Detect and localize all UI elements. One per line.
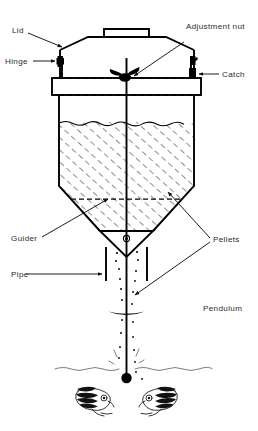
hinge-fitting [57,56,65,67]
water-surface-line [55,367,212,370]
leader-lid [28,33,62,47]
label-adjustment-nut: Adjustment nut [186,22,245,31]
demand-feeder-diagram: Lid Hinge Adjustment nut Catch Guider Pi… [0,0,258,431]
label-hinge: Hinge [5,57,28,66]
label-lid: Lid [12,26,24,35]
fish-left [76,387,114,416]
pellet-fill-hatching [55,118,200,238]
fish-right [139,387,177,416]
label-pellets: Pellets [213,235,240,244]
pendulum-ball [121,373,131,383]
label-catch: Catch [222,70,245,79]
diagram-figure: Lid Hinge Adjustment nut Catch Guider Pi… [0,0,258,431]
leader-pellets-upper [168,192,210,238]
falling-pellet-stream [115,251,143,380]
label-guider: Guider [11,234,37,243]
label-pipe: Pipe [11,270,29,279]
lid-handle [104,29,149,37]
label-pendulum: Pendulum [203,304,242,313]
leader-adjustment-nut [134,42,184,76]
